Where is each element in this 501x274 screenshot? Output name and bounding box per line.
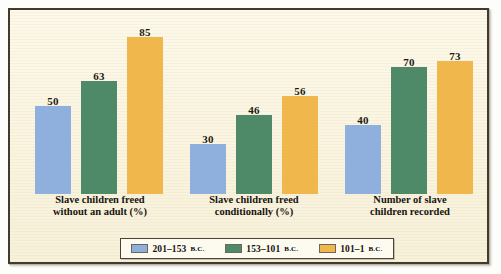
legend-item-201-153bc: 201–153 B.C.: [131, 244, 204, 254]
legend-label-101-1bc: 101–1: [340, 244, 364, 254]
category-1-line1: Slave children freed: [55, 194, 144, 205]
category-2-line2: conditionally: [215, 206, 273, 217]
legend-era-1: B.C.: [190, 245, 204, 253]
category-1-suffix: (%): [130, 206, 148, 217]
legend-swatch-green-icon: [225, 244, 242, 253]
category-3-line1: Number of slave: [373, 194, 446, 205]
category-label-freed-conditionally: Slave children freed conditionally (%): [175, 194, 333, 218]
figure-frame: 50 63 85 30 46 56 40 70 73 Slave childre…: [8, 8, 489, 264]
category-3-line2: children recorded: [370, 206, 450, 217]
legend-label-201-153bc: 201–153: [152, 244, 186, 254]
legend-swatch-blue-icon: [131, 244, 148, 253]
bar-g1-153-101bc: [81, 81, 117, 194]
legend-item-101-1bc: 101–1 B.C.: [319, 244, 382, 254]
legend-era-2: B.C.: [284, 245, 298, 253]
legend-swatch-orange-icon: [319, 244, 336, 253]
bar-g2-201-153bc: [190, 144, 226, 194]
category-1-line2: without an adult: [53, 206, 127, 217]
category-label-number-recorded: Number of slave children recorded: [335, 194, 485, 218]
bar-g2-153-101bc: [236, 115, 272, 194]
bar-g3-201-153bc: [345, 125, 381, 194]
bar-g1-101-1bc: [127, 37, 163, 194]
bar-g1-201-153bc: [35, 106, 71, 194]
bar-g3-101-1bc: [437, 61, 473, 194]
legend-era-3: B.C.: [368, 245, 382, 253]
legend-label-153-101bc: 153–101: [246, 244, 280, 254]
scanned-page: 50 63 85 30 46 56 40 70 73 Slave childre…: [0, 0, 501, 274]
legend-item-153-101bc: 153–101 B.C.: [225, 244, 298, 254]
chart-legend: 201–153 B.C. 153–101 B.C. 101–1 B.C.: [120, 238, 394, 259]
bar-g3-153-101bc: [391, 67, 427, 194]
category-label-freed-without-adult: Slave children freed without an adult (%…: [20, 194, 180, 218]
category-2-line1: Slave children freed: [209, 194, 298, 205]
category-2-suffix: (%): [276, 206, 294, 217]
bar-g2-101-1bc: [282, 96, 318, 194]
bar-chart-plot-area: 50 63 85 30 46 56 40 70 73 Slave childre…: [10, 10, 487, 262]
